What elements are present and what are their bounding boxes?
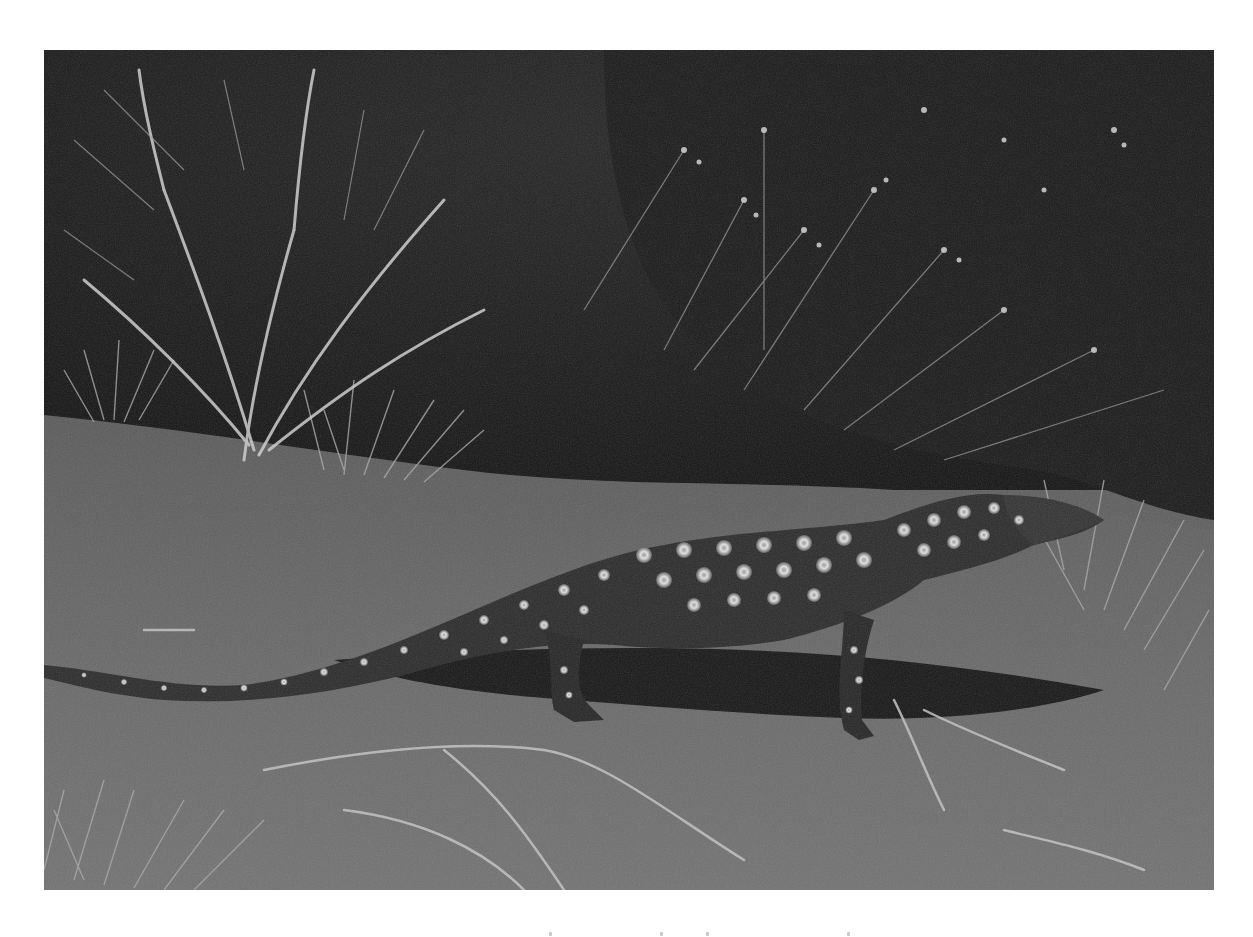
caption-mark [549,932,552,936]
caption-mark [660,932,663,936]
lizard-photograph [44,50,1214,890]
caption-mark [847,932,850,936]
cropped-caption-text [0,910,1253,937]
film-grain-overlay [44,50,1214,890]
caption-mark [706,932,709,936]
photo-canvas [44,50,1214,890]
